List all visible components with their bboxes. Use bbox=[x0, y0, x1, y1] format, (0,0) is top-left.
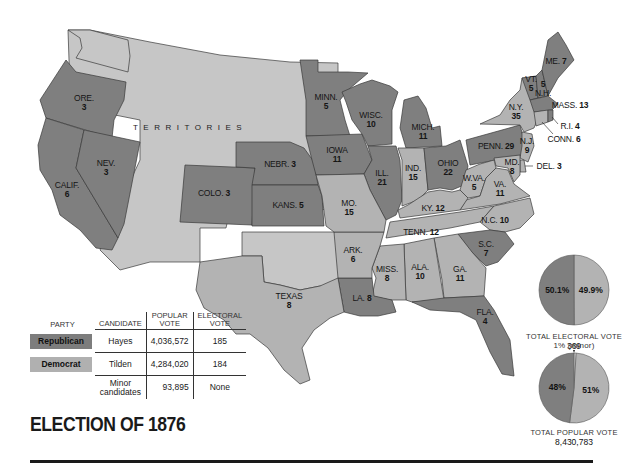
republican-swatch: Republican bbox=[30, 334, 92, 349]
party-cell: Democrat bbox=[30, 353, 95, 376]
leader-ri bbox=[552, 117, 558, 124]
electoral-vote-cell: 184 bbox=[193, 353, 246, 376]
label-kans: KANS. 5 bbox=[272, 200, 304, 210]
electoral-pie-caption: TOTAL ELECTORAL VOTE bbox=[524, 332, 624, 341]
popular-pie-total: 8,430,783 bbox=[524, 437, 624, 447]
label-penn: PENN. 29 bbox=[478, 141, 515, 151]
header-candidate: CANDIDATE bbox=[95, 312, 146, 330]
party-cell: Republican bbox=[30, 330, 95, 353]
electoral-vote-cell: None bbox=[193, 376, 246, 399]
state-conn bbox=[534, 110, 548, 126]
label-fla-votes: 4 bbox=[483, 316, 488, 326]
header-party: PARTY bbox=[30, 312, 95, 330]
label-minn-votes: 5 bbox=[324, 101, 329, 111]
label-nebr: NEBR. 3 bbox=[264, 159, 296, 169]
label-ala-votes: 10 bbox=[415, 271, 425, 281]
label-ore-votes: 3 bbox=[82, 102, 87, 112]
label-nh-name: N.H. bbox=[535, 88, 551, 98]
territories-label: TERRITORIES bbox=[133, 123, 247, 132]
label-mass: MASS. 13 bbox=[552, 100, 589, 110]
label-ark-votes: 6 bbox=[351, 254, 356, 264]
table-row-republican: Republican Hayes 4,036,572 185 bbox=[30, 330, 246, 353]
pie-label-democrat: 49.9% bbox=[579, 285, 604, 295]
label-ny-votes: 35 bbox=[511, 111, 521, 121]
candidate-line2: candidates bbox=[99, 388, 142, 397]
label-va-votes: 11 bbox=[496, 188, 505, 198]
label-iowa-votes: 11 bbox=[333, 154, 342, 164]
popular-pie-caption: TOTAL POPULAR VOTE bbox=[524, 428, 624, 437]
leader-conn bbox=[542, 122, 553, 134]
pie-label-republican: 50.1% bbox=[545, 285, 570, 295]
label-me: ME. 7 bbox=[545, 56, 567, 66]
label-miss-votes: 8 bbox=[385, 273, 390, 283]
label-conn: CONN. 6 bbox=[547, 134, 581, 144]
table-row-democrat: Democrat Tilden 4,284,020 184 bbox=[30, 353, 246, 376]
pie-label-democrat: 51% bbox=[582, 385, 599, 395]
label-del: DEL. 3 bbox=[537, 161, 562, 171]
candidate-cell: Hayes bbox=[95, 330, 146, 353]
label-colo: COLO. 3 bbox=[198, 188, 231, 198]
label-ga-votes: 11 bbox=[456, 273, 465, 283]
header-electoral-vote-line2: VOTE bbox=[198, 320, 242, 328]
minor-arrow-icon bbox=[573, 350, 575, 353]
label-wisc-votes: 10 bbox=[366, 119, 376, 129]
pie-label-republican: 48% bbox=[549, 382, 566, 392]
state-fla bbox=[412, 296, 514, 376]
label-wva-votes: 5 bbox=[472, 182, 477, 192]
party-cell bbox=[30, 376, 95, 399]
popular-vote-pie: 51%48% bbox=[524, 350, 624, 424]
popular-vote-cell: 93,895 bbox=[146, 376, 193, 399]
label-ohio-votes: 22 bbox=[443, 167, 453, 177]
divider bbox=[30, 460, 593, 463]
electoral-vote-pie: 49.9%50.1% bbox=[524, 253, 624, 328]
header-popular-vote-line2: VOTE bbox=[151, 320, 189, 328]
label-texas-votes: 8 bbox=[287, 300, 292, 310]
label-ill-votes: 21 bbox=[377, 177, 387, 187]
label-nev-votes: 3 bbox=[104, 167, 109, 177]
label-mo-votes: 15 bbox=[344, 207, 354, 217]
results-table: PARTY CANDIDATE POPULAR VOTE ELECTORAL V… bbox=[30, 312, 246, 399]
label-ri: R.I. 4 bbox=[560, 121, 580, 131]
state-ri bbox=[548, 110, 553, 122]
label-nc: N.C. 10 bbox=[481, 215, 509, 225]
popular-vote-cell: 4,284,020 bbox=[146, 353, 193, 376]
label-sc-votes: 7 bbox=[484, 248, 489, 258]
candidate-cell: Tilden bbox=[95, 353, 146, 376]
label-ky: KY. 12 bbox=[421, 203, 445, 213]
electoral-vote-pie-block: 49.9%50.1% TOTAL ELECTORAL VOTE 369 bbox=[524, 253, 624, 351]
label-la: LA. 8 bbox=[353, 293, 372, 303]
header-electoral-vote: ELECTORAL VOTE bbox=[193, 312, 246, 330]
label-mich-votes: 11 bbox=[419, 131, 428, 141]
popular-vote-pie-block: 1% (minor) 51%48% TOTAL POPULAR VOTE 8,4… bbox=[524, 341, 624, 447]
democrat-swatch: Democrat bbox=[30, 357, 92, 372]
label-md-votes: 8 bbox=[510, 166, 515, 176]
minor-annotation: 1% (minor) bbox=[524, 341, 624, 350]
label-nj-votes: 9 bbox=[525, 145, 530, 155]
table-row-minor: Minor candidates 93,895 None bbox=[30, 376, 246, 399]
label-ind-votes: 15 bbox=[408, 172, 418, 182]
popular-vote-cell: 4,036,572 bbox=[146, 330, 193, 353]
candidate-cell: Minor candidates bbox=[95, 376, 146, 399]
label-calif-votes: 6 bbox=[65, 189, 70, 199]
page-title: ELECTION OF 1876 bbox=[30, 413, 185, 436]
electoral-vote-cell: 185 bbox=[193, 330, 246, 353]
label-vt-votes: 5 bbox=[529, 83, 534, 93]
label-tenn: TENN. 12 bbox=[403, 227, 439, 237]
header-popular-vote: POPULAR VOTE bbox=[146, 312, 193, 330]
